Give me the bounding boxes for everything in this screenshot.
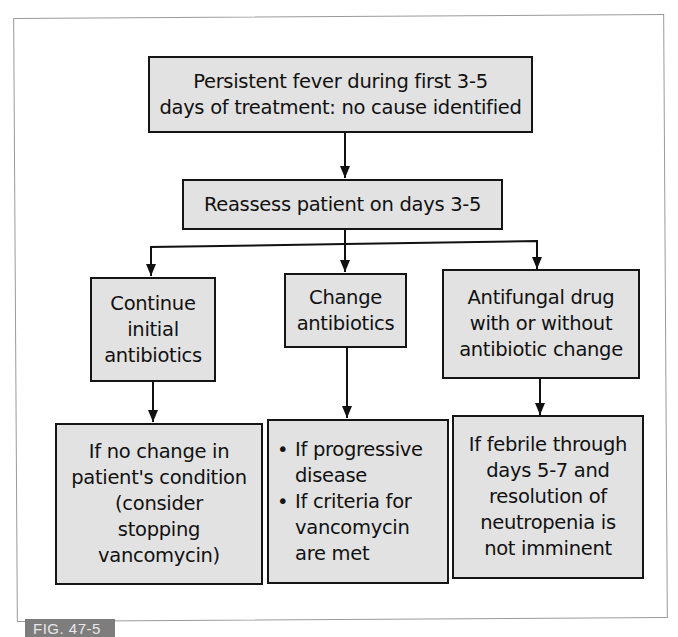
- change-outcome-list: If progressive disease If criteria for v…: [277, 437, 423, 567]
- continue-antibiotics-node: Continue initial antibiotics: [90, 277, 216, 382]
- antifungal-node: Antifungal drug with or without antibiot…: [442, 269, 640, 379]
- change-outcome-item: If criteria for vancomycin are met: [277, 489, 423, 567]
- figure-label: FIG. 47-5: [25, 619, 115, 637]
- antifungal-outcome-node: If febrile through days 5-7 and resoluti…: [452, 415, 644, 579]
- antifungal-text: Antifungal drug with or without antibiot…: [459, 285, 623, 363]
- change-outcome-node: If progressive disease If criteria for v…: [267, 419, 449, 584]
- reassess-node: Reassess patient on days 3-5: [182, 179, 503, 230]
- change-antibiotics-node: Change antibiotics: [284, 273, 407, 348]
- continue-outcome-node: If no change in patient's condition (con…: [55, 423, 263, 585]
- continue-outcome-text: If no change in patient's condition (con…: [71, 439, 247, 569]
- change-outcome-item: If progressive disease: [277, 437, 423, 489]
- change-antibiotics-text: Change antibiotics: [297, 285, 395, 337]
- reassess-node-text: Reassess patient on days 3-5: [204, 192, 481, 218]
- start-node-text: Persistent fever during first 3-5 days o…: [159, 69, 521, 121]
- antifungal-outcome-text: If febrile through days 5-7 and resoluti…: [469, 432, 627, 562]
- start-node: Persistent fever during first 3-5 days o…: [148, 56, 533, 133]
- continue-antibiotics-text: Continue initial antibiotics: [104, 291, 202, 369]
